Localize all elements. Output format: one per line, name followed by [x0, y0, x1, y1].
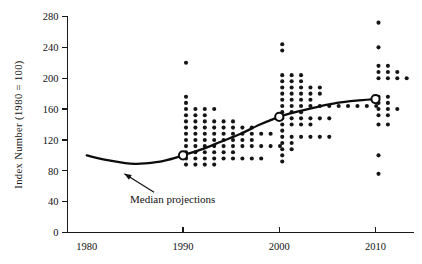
- data-dot: [222, 144, 226, 148]
- data-dot: [365, 104, 369, 108]
- data-dot: [386, 64, 390, 68]
- data-dot: [250, 144, 254, 148]
- data-dot: [203, 119, 207, 123]
- median-projection-line: [87, 99, 376, 164]
- annotation-layer: Median projections: [124, 174, 215, 205]
- data-dot: [386, 95, 390, 99]
- data-dot: [299, 98, 303, 102]
- data-dot: [376, 113, 380, 117]
- x-axis: 1980199020002010: [68, 227, 415, 252]
- data-dot: [318, 135, 322, 139]
- data-dot: [376, 76, 380, 80]
- data-dot: [269, 132, 273, 136]
- data-dot: [327, 135, 331, 139]
- data-dot: [280, 141, 284, 145]
- data-dot: [203, 113, 207, 117]
- x-tick-label-2010: 2010: [365, 241, 386, 252]
- data-dot: [280, 48, 284, 52]
- data-dot: [290, 104, 294, 108]
- data-dot: [193, 156, 197, 160]
- median-marker-2010: [371, 95, 379, 103]
- data-dot: [212, 163, 216, 167]
- y-tick-label-280: 280: [43, 11, 59, 22]
- data-dot: [318, 116, 322, 120]
- data-dot: [259, 144, 263, 148]
- data-dot: [259, 132, 263, 136]
- data-dot: [184, 132, 188, 136]
- data-dot: [395, 76, 399, 80]
- data-dot: [193, 119, 197, 123]
- data-dot: [212, 132, 216, 136]
- y-tick-label-200: 200: [43, 73, 59, 84]
- data-dot: [250, 138, 254, 142]
- data-dot: [184, 101, 188, 105]
- x-tick-label-1980: 1980: [76, 241, 97, 252]
- data-dot: [290, 98, 294, 102]
- data-dot: [240, 156, 244, 160]
- data-dot: [222, 126, 226, 130]
- data-dot: [231, 126, 235, 130]
- data-dot: [222, 150, 226, 154]
- data-dot: [290, 85, 294, 89]
- y-tick-label-0: 0: [53, 227, 58, 238]
- data-dot: [280, 85, 284, 89]
- data-dot: [280, 135, 284, 139]
- annotation-arrow-head: [124, 174, 131, 180]
- data-dot: [308, 92, 312, 96]
- data-dot: [318, 92, 322, 96]
- data-dot: [395, 70, 399, 74]
- data-dot: [280, 147, 284, 151]
- data-dot: [308, 85, 312, 89]
- data-dot: [280, 153, 284, 157]
- data-dot: [280, 92, 284, 96]
- y-tick-label-80: 80: [48, 166, 59, 177]
- data-dot: [299, 104, 303, 108]
- data-dot: [299, 79, 303, 83]
- data-dot: [386, 122, 390, 126]
- data-dot: [290, 135, 294, 139]
- data-dot: [184, 113, 188, 117]
- x-tick-label-1990: 1990: [173, 241, 194, 252]
- data-dot: [290, 122, 294, 126]
- data-dot: [184, 119, 188, 123]
- data-dot: [203, 163, 207, 167]
- data-dot: [386, 107, 390, 111]
- data-dot: [290, 92, 294, 96]
- data-dot: [376, 107, 380, 111]
- data-dot: [376, 70, 380, 74]
- data-dot: [259, 156, 263, 160]
- data-dot: [308, 135, 312, 139]
- data-dot: [395, 107, 399, 111]
- data-dot: [376, 45, 380, 49]
- data-dot: [386, 101, 390, 105]
- data-dot: [212, 126, 216, 130]
- median-projection-curve: [87, 99, 376, 164]
- data-dot: [299, 73, 303, 77]
- data-dot: [299, 116, 303, 120]
- data-dot: [222, 132, 226, 136]
- data-dot: [240, 138, 244, 142]
- data-dot: [308, 116, 312, 120]
- data-dot: [184, 144, 188, 148]
- data-dot: [184, 61, 188, 65]
- chart-figure: 04080120160200240280 1980199020002010 In…: [0, 0, 422, 264]
- data-dot: [308, 98, 312, 102]
- y-tick-label-160: 160: [43, 104, 59, 115]
- data-dot: [280, 122, 284, 126]
- data-dot: [327, 116, 331, 120]
- data-dot: [203, 132, 207, 136]
- data-dot: [184, 95, 188, 99]
- data-dot: [212, 138, 216, 142]
- data-dot: [308, 122, 312, 126]
- data-dot: [212, 119, 216, 123]
- data-dot: [203, 107, 207, 111]
- data-dot: [184, 126, 188, 130]
- data-dot: [193, 126, 197, 130]
- data-dot: [290, 141, 294, 145]
- data-dot: [280, 159, 284, 163]
- data-dot: [184, 163, 188, 167]
- data-dot: [193, 144, 197, 148]
- data-dot: [222, 119, 226, 123]
- data-dot: [203, 150, 207, 154]
- data-dot: [299, 85, 303, 89]
